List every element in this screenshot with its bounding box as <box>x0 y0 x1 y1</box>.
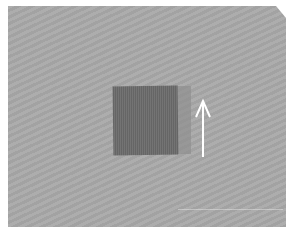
fabric-swatch <box>113 86 179 156</box>
photo-background <box>8 6 286 227</box>
arrow-up-icon <box>194 97 212 159</box>
fold-line <box>178 209 283 210</box>
swatch-shadow <box>177 86 191 154</box>
